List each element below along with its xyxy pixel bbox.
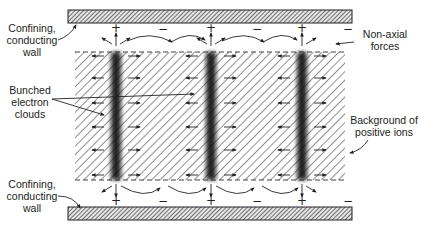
bottom-sign: − bbox=[342, 195, 354, 207]
positive-ions-label-line-2: positive ions bbox=[348, 126, 420, 138]
top-sign: − bbox=[157, 23, 169, 35]
positive-ions-label-line-1: Background of bbox=[348, 114, 420, 126]
bottom-wall-label-line-1: Confining, bbox=[2, 178, 62, 190]
electron-clouds-label-line-3: clouds bbox=[4, 108, 56, 120]
top-sign: + bbox=[110, 22, 122, 34]
bottom-sign: − bbox=[251, 195, 263, 207]
electron-clouds-label-line-1: Bunched bbox=[4, 84, 56, 96]
top-wall-label-line-2: conducting bbox=[2, 34, 62, 46]
top-sign: + bbox=[296, 22, 308, 34]
top-sign: − bbox=[342, 23, 354, 35]
top-wall-label-line-1: Confining, bbox=[2, 22, 62, 34]
top-sign: + bbox=[205, 22, 217, 34]
electron-clouds-label-line-2: electron bbox=[4, 96, 56, 108]
top-wall-label: Confining, conducting wall bbox=[2, 22, 62, 58]
bottom-wall bbox=[68, 207, 352, 220]
top-sign: − bbox=[251, 23, 263, 35]
bottom-wall-label-line-3: wall bbox=[2, 202, 62, 214]
non-axial-label-line-1: Non-axial bbox=[352, 28, 418, 40]
bottom-wall-label: Confining, conducting wall bbox=[2, 178, 62, 214]
electron-clouds-label: Bunched electron clouds bbox=[4, 84, 56, 120]
top-wall-label-line-3: wall bbox=[2, 46, 62, 58]
bottom-sign: + bbox=[110, 195, 122, 207]
bottom-sign: − bbox=[157, 195, 169, 207]
diagram-stage: Confining, conducting wall Confining, co… bbox=[0, 0, 421, 232]
non-axial-forces-label: Non-axial forces bbox=[352, 28, 418, 52]
non-axial-label-line-2: forces bbox=[352, 40, 418, 52]
bottom-sign: + bbox=[296, 195, 308, 207]
bottom-sign: + bbox=[205, 195, 217, 207]
bottom-wall-label-line-2: conducting bbox=[2, 190, 62, 202]
positive-ions-label: Background of positive ions bbox=[348, 114, 420, 138]
